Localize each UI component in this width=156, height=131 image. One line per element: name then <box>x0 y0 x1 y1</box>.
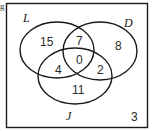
region-outside: 3 <box>131 110 138 124</box>
region-l-only: 15 <box>40 35 54 49</box>
region-l-and-j: 4 <box>55 63 62 77</box>
venn-diagram: g L D J 15 7 8 0 4 2 11 3 <box>0 0 156 131</box>
set-l-label: L <box>22 11 30 25</box>
region-d-only: 8 <box>115 39 122 53</box>
set-j-label: J <box>66 109 72 123</box>
region-l-d-j: 0 <box>76 53 83 67</box>
region-d-and-j: 2 <box>97 63 104 77</box>
set-d-label: D <box>123 16 133 30</box>
corner-fragment: g <box>0 1 5 11</box>
region-l-and-d: 7 <box>76 34 83 48</box>
region-j-only: 11 <box>72 83 85 97</box>
